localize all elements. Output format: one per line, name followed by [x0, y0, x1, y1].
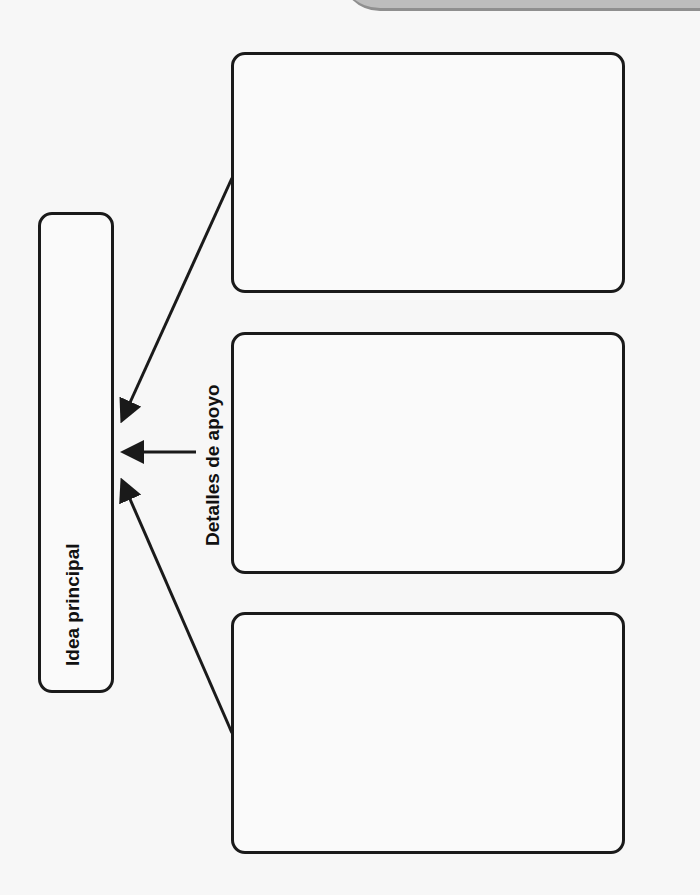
arrow-top	[123, 178, 232, 418]
arrow-bottom	[123, 483, 232, 733]
